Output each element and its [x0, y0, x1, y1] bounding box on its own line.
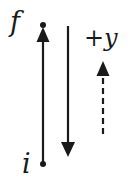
initial-label: i: [22, 150, 31, 177]
axis-variable: y: [104, 24, 118, 52]
axis-label: +y: [84, 26, 118, 50]
initial-point-dot: [40, 161, 46, 167]
downward-arrow: [61, 26, 75, 157]
final-label: f: [10, 8, 20, 35]
positive-y-direction-arrow: [97, 61, 110, 134]
axis-sign: +: [84, 24, 104, 52]
upward-displacement-arrow: [37, 22, 50, 167]
final-point-dot: [40, 22, 46, 28]
